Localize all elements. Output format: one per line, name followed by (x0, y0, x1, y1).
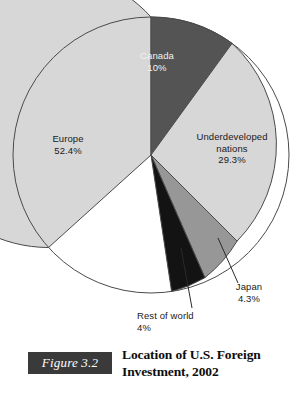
pie-chart: Canada 10% Underdeveloped nations 29.3% … (0, 0, 303, 340)
pie-label-underdeveloped-line2: nations (185, 143, 279, 155)
pie-label-europe-percent: 52.4% (36, 145, 100, 157)
figure-caption: Figure 3.2 Location of U.S. Foreign Inve… (0, 344, 303, 393)
pie-label-europe-name: Europe (52, 133, 83, 144)
pie-label-underdeveloped-line1: Underdeveloped (196, 131, 267, 142)
pie-label-japan-name: Japan (236, 281, 262, 292)
figure-caption-title: Location of U.S. Foreign Investment, 200… (122, 346, 300, 380)
figure-caption-title-line2: Investment, 2002 (122, 363, 300, 380)
pie-label-canada-percent: 10% (129, 62, 185, 74)
figure-caption-title-line1: Location of U.S. Foreign (122, 346, 300, 363)
pie-label-canada-name: Canada (140, 50, 174, 61)
figure-container: Canada 10% Underdeveloped nations 29.3% … (0, 0, 303, 393)
pie-label-underdeveloped-nations: Underdeveloped nations 29.3% (185, 131, 279, 166)
pie-label-rest-of-world-percent: 4% (137, 322, 241, 334)
pie-label-underdeveloped-percent: 29.3% (185, 154, 279, 166)
pie-label-canada: Canada 10% (129, 50, 185, 73)
pie-label-rest-of-world-name: Rest of world (137, 310, 194, 321)
pie-label-japan: Japan 4.3% (221, 281, 277, 304)
figure-number-badge: Figure 3.2 (28, 352, 112, 374)
pie-label-japan-percent: 4.3% (221, 293, 277, 305)
pie-label-europe: Europe 52.4% (36, 133, 100, 156)
pie-slice-europe[interactable] (0, 0, 151, 248)
pie-label-rest-of-world: Rest of world 4% (137, 310, 241, 333)
